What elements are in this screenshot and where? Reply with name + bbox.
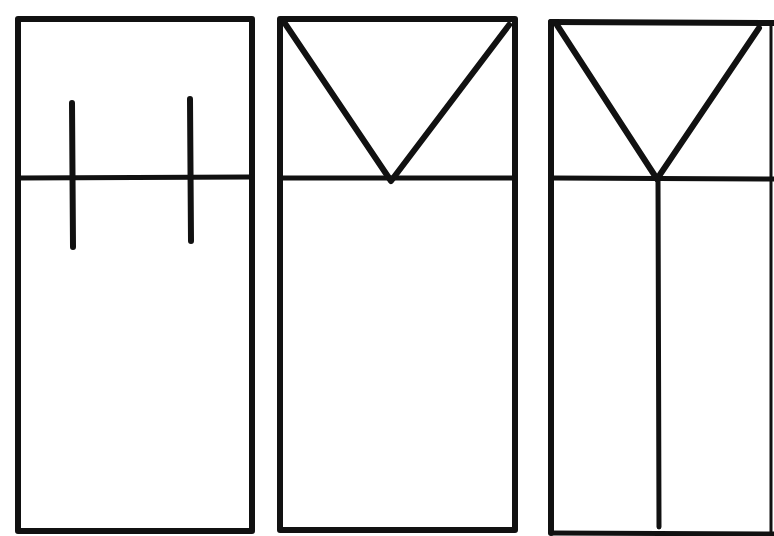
panel-3-divider <box>553 178 774 179</box>
panel-3-stem <box>658 179 659 527</box>
panel-3-top-edge <box>551 22 774 23</box>
panel-1-frame <box>18 19 252 531</box>
panel-3 <box>551 22 774 536</box>
panel-2 <box>280 19 515 530</box>
panel-1 <box>18 19 252 531</box>
diagram-canvas <box>0 0 774 536</box>
panel-1-tick-left <box>72 103 73 247</box>
panel-3-bottom-edge <box>551 533 774 534</box>
panel-2-v-shape <box>284 22 509 181</box>
panel-1-tick-right <box>190 99 191 241</box>
panel-3-v-shape <box>557 25 759 179</box>
panel-2-frame <box>280 19 515 530</box>
panel-1-divider <box>20 177 250 178</box>
